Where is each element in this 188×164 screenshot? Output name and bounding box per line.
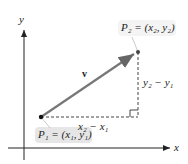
p2-label: P₂ = (x₂, y₂) (121, 22, 175, 33)
x-axis-label: x (174, 142, 179, 153)
y-axis-label: y (19, 14, 24, 25)
p2-leader (132, 37, 138, 52)
horizontal-difference-label: x₂ − x₁ (78, 121, 108, 132)
vector-label: v (82, 69, 87, 79)
point-p1 (39, 115, 43, 119)
right-angle-marker (130, 110, 138, 117)
vertical-difference-label: y₂ − y₁ (143, 77, 173, 88)
point-p2 (136, 50, 140, 54)
vector-v (41, 54, 134, 117)
